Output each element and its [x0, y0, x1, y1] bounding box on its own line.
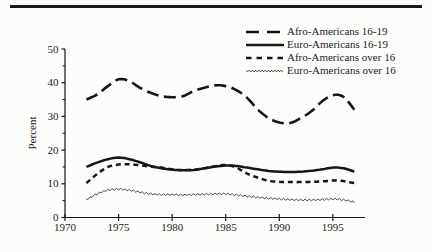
- y-tick-label-30: 30: [48, 110, 60, 122]
- y-tick-label-50: 50: [48, 43, 60, 55]
- line-chart-canvas: 01020304050197019751980198519901995Perce…: [0, 0, 432, 252]
- y-tick-label-40: 40: [48, 76, 60, 88]
- x-tick-label-1995: 1995: [322, 221, 345, 233]
- tick-labels: 01020304050197019751980198519901995Perce…: [26, 43, 344, 234]
- axis-lines: [65, 49, 365, 218]
- x-tick-label-1975: 1975: [108, 221, 131, 233]
- x-tick-label-1970: 1970: [54, 221, 77, 233]
- unemployment-line-chart-figure: Afro-Americans 16-19 Euro-Americans 16-1…: [0, 0, 432, 252]
- axes: [62, 49, 366, 221]
- x-tick-label-1980: 1980: [161, 221, 184, 233]
- series-line-afro-americans-16-19: [86, 79, 354, 124]
- x-tick-label-1985: 1985: [215, 221, 238, 233]
- y-tick-label-20: 20: [48, 144, 60, 156]
- series-line-euro-americans-over-16: [86, 188, 354, 202]
- y-tick-label-10: 10: [48, 177, 60, 189]
- x-tick-label-1990: 1990: [268, 221, 291, 233]
- series-lines: [86, 79, 354, 203]
- y-axis-title: Percent: [26, 117, 38, 150]
